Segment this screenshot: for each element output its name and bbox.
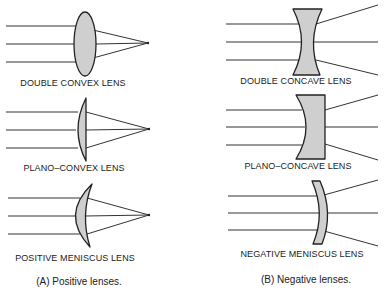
incoming-rays: [228, 196, 320, 230]
converging-rays: [86, 112, 149, 148]
incoming-rays: [6, 112, 78, 148]
converging-rays: [93, 30, 148, 58]
lens-label: DOUBLE CONVEX LENS: [20, 78, 125, 88]
positive-lenses-caption: (A) Positive lenses.: [36, 276, 122, 287]
focal-point: [147, 42, 149, 44]
plano-concave-lens-figure: PLANO–CONCAVE LENS: [226, 95, 378, 171]
plano-convex-lens-shape: [78, 98, 86, 161]
incoming-rays: [8, 198, 80, 234]
lens-label: POSITIVE MENISCUS LENS: [15, 253, 135, 263]
negative-meniscus-lens-figure: NEGATIVE MENISCUS LENS: [228, 180, 378, 259]
focal-point: [148, 128, 150, 130]
lens-label: PLANO–CONVEX LENS: [23, 163, 124, 173]
plano-convex-lens-figure: PLANO–CONVEX LENS: [6, 98, 150, 173]
positive-lenses-panel: DOUBLE CONVEX LENS PLANO–CONVEX LENS: [6, 12, 150, 287]
double-convex-lens-shape: [74, 12, 96, 76]
incoming-rays: [6, 26, 77, 62]
negative-lenses-caption: (B) Negative lenses.: [261, 274, 351, 285]
converging-rays: [85, 198, 149, 234]
positive-meniscus-lens-figure: POSITIVE MENISCUS LENS: [8, 184, 150, 263]
focal-point: [148, 214, 150, 216]
double-concave-lens-figure: DOUBLE CONCAVE LENS: [226, 5, 378, 86]
lens-label: DOUBLE CONCAVE LENS: [240, 76, 351, 86]
incoming-rays: [226, 24, 304, 60]
incoming-rays: [226, 110, 305, 145]
diverging-rays: [313, 5, 378, 75]
lens-label: NEGATIVE MENISCUS LENS: [240, 249, 363, 259]
negative-lenses-panel: DOUBLE CONCAVE LENS PLANO–CONCAVE LENS: [226, 5, 378, 285]
lens-diagram: DOUBLE CONVEX LENS PLANO–CONVEX LENS: [0, 0, 388, 303]
diverging-rays: [325, 95, 378, 160]
double-convex-lens-figure: DOUBLE CONVEX LENS: [6, 12, 149, 88]
diverging-rays: [324, 180, 378, 246]
lens-label: PLANO–CONCAVE LENS: [244, 161, 351, 171]
